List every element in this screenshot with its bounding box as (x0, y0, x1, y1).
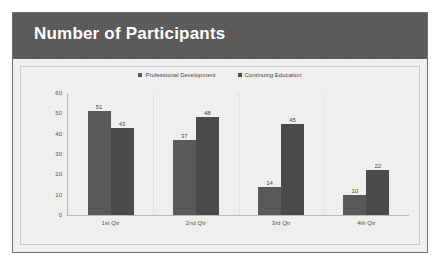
legend-label: Professional Development (145, 72, 215, 78)
page-title: Number of Participants (34, 24, 225, 44)
x-axis-label: 2nd Qtr (186, 220, 206, 226)
legend-swatch-icon (138, 73, 142, 77)
chart-legend: Professional DevelopmentContinuing Educa… (21, 72, 419, 78)
y-axis-tick: 30 (55, 151, 62, 157)
legend-swatch-icon (238, 73, 242, 77)
bar-value-label: 14 (266, 180, 273, 186)
bar[interactable]: 48 (196, 117, 219, 215)
bar-value-label: 51 (96, 104, 103, 110)
bar-value-label: 43 (119, 121, 126, 127)
y-axis-tick: 50 (55, 110, 62, 116)
x-axis-line (67, 215, 409, 216)
bar[interactable]: 51 (88, 111, 111, 215)
bar-group: 37482nd Qtr (153, 93, 238, 215)
legend-item-0[interactable]: Professional Development (138, 72, 215, 78)
bar-group: 51431st Qtr (68, 93, 153, 215)
y-axis-tick: 40 (55, 131, 62, 137)
legend-label: Continuing Education (245, 72, 302, 78)
bar[interactable]: 14 (258, 187, 281, 215)
slide-title-band: Number of Participants (13, 13, 427, 59)
y-axis-tick: 60 (55, 90, 62, 96)
x-axis-label: 3rd Qtr (272, 220, 291, 226)
bar[interactable]: 22 (366, 170, 389, 215)
y-axis-tick: 0 (59, 212, 62, 218)
bar-value-label: 48 (204, 110, 211, 116)
y-axis-tick: 20 (55, 171, 62, 177)
bar[interactable]: 43 (111, 128, 134, 215)
chart-panel: Professional DevelopmentContinuing Educa… (20, 66, 420, 245)
x-axis-label: 4th Qtr (357, 220, 375, 226)
chart-plot-area: 010203040506051431st Qtr37482nd Qtr14453… (68, 93, 409, 215)
bar-value-label: 10 (352, 188, 359, 194)
bar[interactable]: 10 (343, 195, 366, 215)
bar-value-label: 22 (375, 163, 382, 169)
bar-group: 10224th Qtr (324, 93, 409, 215)
y-axis-tick: 10 (55, 192, 62, 198)
bar[interactable]: 45 (281, 124, 304, 216)
bar[interactable]: 37 (173, 140, 196, 215)
bar-value-label: 45 (289, 117, 296, 123)
bar-value-label: 37 (181, 133, 188, 139)
bar-group: 14453rd Qtr (239, 93, 324, 215)
slide-frame: Number of Participants Professional Deve… (12, 12, 428, 253)
x-axis-label: 1st Qtr (102, 220, 120, 226)
legend-item-1[interactable]: Continuing Education (238, 72, 302, 78)
